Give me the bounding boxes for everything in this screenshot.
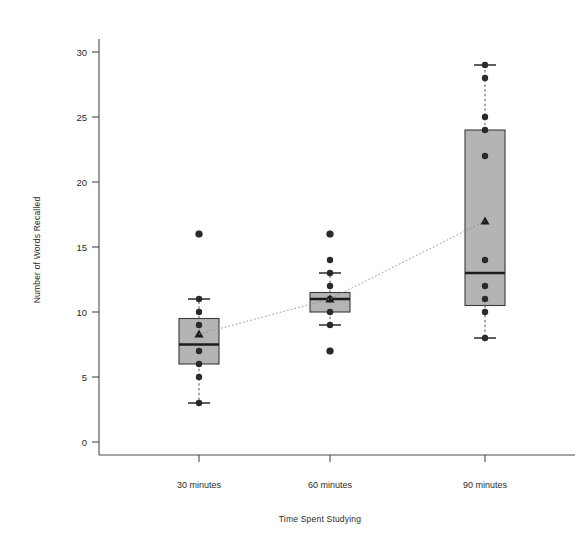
chart-canvas: 051015202530 30 minutes60 minutes90 minu… xyxy=(0,0,585,554)
data-point xyxy=(327,309,333,315)
data-point xyxy=(327,283,333,289)
data-point xyxy=(482,114,488,120)
y-tick-label: 10 xyxy=(76,307,87,318)
y-tick-label: 25 xyxy=(76,112,87,123)
data-point xyxy=(482,127,488,133)
data-point xyxy=(482,62,488,68)
y-tick-label: 5 xyxy=(82,372,87,383)
y-axis-title: Number of Words Recalled xyxy=(32,197,42,304)
data-point xyxy=(196,322,202,328)
y-tick-label: 0 xyxy=(82,437,87,448)
data-point xyxy=(482,309,488,315)
data-point xyxy=(482,153,488,159)
x-axis-title: Time Spent Studying xyxy=(279,514,361,524)
data-point xyxy=(196,374,202,380)
data-point xyxy=(482,75,488,81)
boxplot-figure: 051015202530 30 minutes60 minutes90 minu… xyxy=(0,0,585,554)
y-tick-label: 15 xyxy=(76,242,87,253)
data-point xyxy=(482,283,488,289)
y-tick-label: 20 xyxy=(76,177,87,188)
data-point xyxy=(196,348,202,354)
outlier-point xyxy=(326,347,333,354)
data-point xyxy=(196,361,202,367)
data-point xyxy=(196,400,202,406)
data-point xyxy=(327,322,333,328)
y-tick-label: 30 xyxy=(76,47,87,58)
data-point xyxy=(196,296,202,302)
data-point xyxy=(482,296,488,302)
category-label: 90 minutes xyxy=(463,480,508,490)
outlier-point xyxy=(195,230,202,237)
category-label: 30 minutes xyxy=(177,480,222,490)
category-label: 60 minutes xyxy=(308,480,353,490)
data-point xyxy=(482,335,488,341)
outlier-point xyxy=(326,230,333,237)
data-point xyxy=(482,257,488,263)
data-point xyxy=(196,309,202,315)
data-point xyxy=(327,257,333,263)
data-point xyxy=(327,270,333,276)
